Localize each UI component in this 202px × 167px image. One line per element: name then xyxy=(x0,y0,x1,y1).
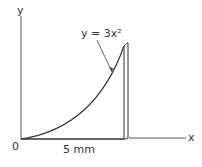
differential-strip xyxy=(124,43,128,139)
equation-label: y = 3x² xyxy=(81,28,122,39)
dimension-label: 5 mm xyxy=(63,144,95,155)
y-axis-label: y xyxy=(17,5,24,16)
leader-arrow-icon xyxy=(109,67,113,72)
x-axis-label: x xyxy=(188,132,195,143)
origin-label: 0 xyxy=(12,141,19,152)
parabola-curve xyxy=(21,46,124,139)
diagram-canvas xyxy=(0,0,202,167)
